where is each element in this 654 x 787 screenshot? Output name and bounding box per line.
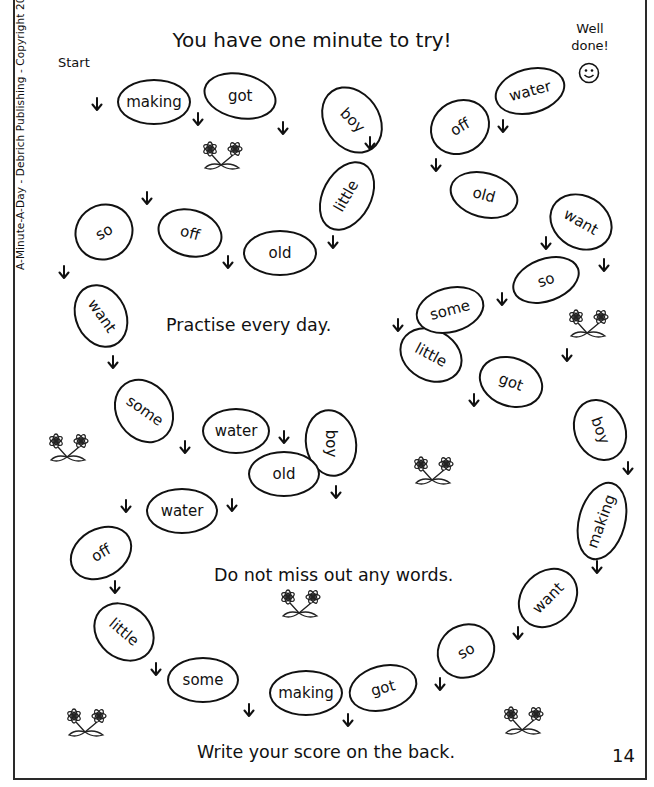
finish-label-line1: Well xyxy=(568,20,612,37)
word-oval[interactable]: making xyxy=(117,79,191,125)
down-arrow-icon xyxy=(179,440,191,454)
page-number: 14 xyxy=(612,745,635,766)
down-arrow-icon xyxy=(622,461,634,475)
finish-label: Well done! xyxy=(568,20,612,54)
word-oval[interactable]: old xyxy=(243,230,317,276)
down-arrow-icon xyxy=(120,499,132,513)
smiley-face-icon xyxy=(578,62,600,84)
down-arrow-icon xyxy=(434,677,446,691)
word-text: boy xyxy=(588,414,612,445)
word-text: old xyxy=(269,246,292,261)
down-arrow-icon xyxy=(222,255,234,269)
word-text: off xyxy=(179,223,202,243)
flower-icon xyxy=(58,705,116,739)
down-arrow-icon xyxy=(430,158,442,172)
word-text: want xyxy=(561,206,600,237)
word-text: some xyxy=(183,673,224,688)
down-arrow-icon xyxy=(141,191,153,205)
message-write-score: Write your score on the back. xyxy=(197,742,455,762)
word-text: boy xyxy=(323,429,338,457)
down-arrow-icon xyxy=(591,560,603,574)
word-text: some xyxy=(428,297,471,322)
word-text: got xyxy=(228,89,253,104)
down-arrow-icon xyxy=(109,580,121,594)
word-text: water xyxy=(161,504,204,519)
down-arrow-icon xyxy=(226,498,238,512)
page-title-text: You have one minute to try! xyxy=(172,28,451,52)
word-text: making xyxy=(126,95,182,110)
down-arrow-icon xyxy=(392,318,404,332)
flower-icon xyxy=(560,306,618,340)
down-arrow-icon xyxy=(468,393,480,407)
finish-label-line2: done! xyxy=(568,37,612,54)
word-oval[interactable]: water xyxy=(202,408,270,454)
down-arrow-icon xyxy=(561,348,573,362)
page-title: You have one minute to try! xyxy=(0,28,654,52)
message-do-not-miss: Do not miss out any words. xyxy=(214,565,453,585)
word-text: got xyxy=(369,678,397,699)
word-text: old xyxy=(273,467,296,482)
down-arrow-icon xyxy=(192,112,204,126)
word-text: want xyxy=(84,297,117,336)
word-text: little xyxy=(106,615,141,648)
word-text: off xyxy=(448,116,472,139)
word-text: little xyxy=(332,178,362,215)
word-text: water xyxy=(507,78,552,104)
word-text: some xyxy=(123,393,165,429)
flower-icon xyxy=(272,586,330,620)
message-practise: Practise every day. xyxy=(166,315,331,335)
word-text: making xyxy=(278,686,334,701)
word-text: making xyxy=(585,492,618,549)
word-text: little xyxy=(413,341,450,370)
down-arrow-icon xyxy=(243,703,255,717)
word-oval[interactable]: old xyxy=(248,451,320,497)
down-arrow-icon xyxy=(364,136,376,150)
flower-icon xyxy=(405,453,463,487)
start-label: Start xyxy=(58,55,90,70)
down-arrow-icon xyxy=(496,292,508,306)
word-oval[interactable]: water xyxy=(146,488,218,534)
side-credit: A-Minute-A-Day - Debrich Publishing - Co… xyxy=(14,0,26,270)
down-arrow-icon xyxy=(330,485,342,499)
down-arrow-icon xyxy=(277,121,289,135)
down-arrow-icon xyxy=(58,265,70,279)
word-text: so xyxy=(455,640,477,661)
down-arrow-icon xyxy=(107,355,119,369)
word-oval[interactable]: some xyxy=(167,657,239,703)
down-arrow-icon xyxy=(598,258,610,272)
word-text: water xyxy=(215,424,258,439)
word-text: so xyxy=(93,221,115,242)
word-text: boy xyxy=(337,105,367,135)
down-arrow-icon xyxy=(342,713,354,727)
down-arrow-icon xyxy=(91,97,103,111)
down-arrow-icon xyxy=(278,430,290,444)
flower-icon xyxy=(495,703,553,737)
flower-icon xyxy=(194,138,252,172)
down-arrow-icon xyxy=(540,236,552,250)
down-arrow-icon xyxy=(497,119,509,133)
word-text: so xyxy=(535,270,556,290)
word-text: old xyxy=(471,185,497,205)
down-arrow-icon xyxy=(512,626,524,640)
word-oval[interactable]: making xyxy=(269,670,343,716)
word-text: off xyxy=(89,542,113,565)
flower-icon xyxy=(40,430,98,464)
word-text: got xyxy=(497,371,525,394)
down-arrow-icon xyxy=(150,662,162,676)
down-arrow-icon xyxy=(327,235,339,249)
word-text: want xyxy=(530,580,567,617)
